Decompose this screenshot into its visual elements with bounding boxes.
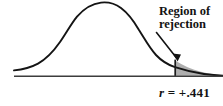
critical-value-label: r = +.441 (159, 86, 210, 99)
normal-curve-figure: Region of rejection r = +.441 (0, 0, 223, 106)
r-equation-text: = +.441 (164, 85, 210, 100)
region-label-line-2: rejection (159, 18, 210, 31)
callout-arrow (157, 33, 182, 62)
region-of-rejection-label: Region of rejection (159, 5, 210, 31)
region-label-line-1: Region of (159, 4, 210, 18)
